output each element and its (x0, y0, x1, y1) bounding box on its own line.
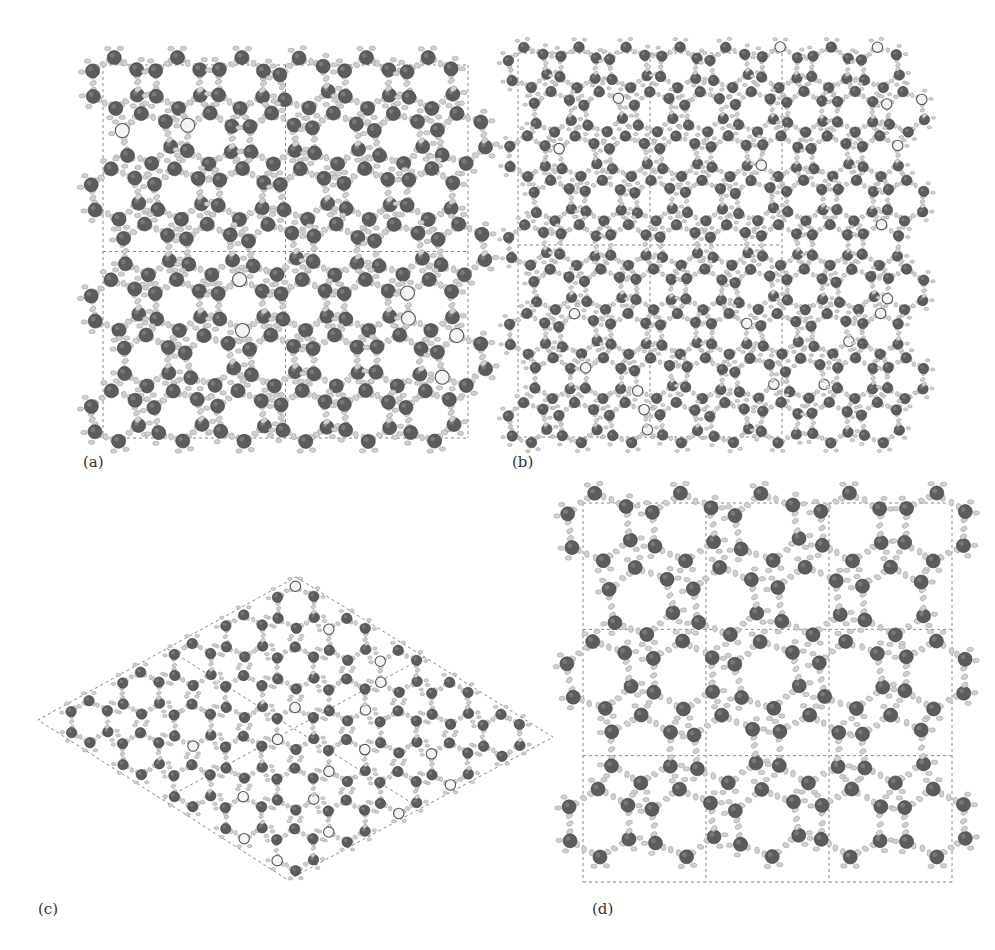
panel-a-structure-atoms (77, 46, 499, 454)
panel-c-cell-lines (38, 577, 553, 880)
panel-a-structure (0, 0, 995, 950)
panel-b-structure (497, 37, 936, 452)
panel-b-structure-cell-lines (518, 53, 782, 437)
panel-d-structure (553, 481, 979, 882)
panel-d-structure-atoms (553, 481, 979, 868)
panel-c-atoms (60, 577, 532, 880)
panel-b-label: (b) (512, 453, 533, 471)
panel-d-label: (d) (592, 900, 613, 918)
panel-a-structure (77, 46, 499, 454)
panel-c-label: (c) (38, 900, 58, 918)
panel-a-label: (a) (83, 453, 104, 471)
panel-c-structure (38, 577, 553, 880)
figure: (a) (b) (c) (d) (0, 0, 995, 950)
